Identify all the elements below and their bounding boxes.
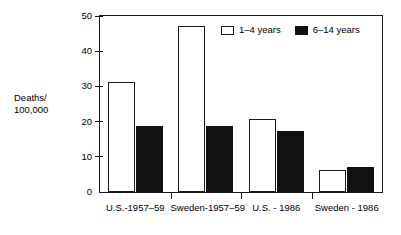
y-axis-tick-label-0: 0	[60, 185, 92, 198]
x-axis-label-1: U.S.-1957–59	[100, 201, 171, 214]
bar-2-series-2	[206, 126, 233, 192]
legend-label-1-4-years: 1–4 years	[239, 24, 281, 36]
legend-entry-1-4-years: 1–4 years	[221, 24, 281, 36]
x-axis-label-2: Sweden-1957–59	[171, 201, 242, 214]
x-axis-group-separator-2	[241, 193, 242, 199]
legend-entry-6-14-years: 6–14 years	[295, 24, 360, 36]
bar-4-series-1	[319, 170, 346, 192]
bar-4-series-2	[347, 167, 374, 192]
y-axis-tick-label-40: 40	[60, 44, 92, 57]
y-axis-tick-label-20: 20	[60, 115, 92, 128]
y-axis-tick-label-10: 10	[60, 150, 92, 163]
bar-3-series-2	[277, 131, 304, 192]
y-axis-title: Deaths/ 100,000	[14, 92, 76, 116]
x-axis-group-separator-1	[171, 193, 172, 199]
y-axis-tick-mark-30	[95, 86, 103, 87]
y-axis-title-line-1: Deaths/	[14, 92, 76, 104]
y-axis-tick-mark-50	[95, 16, 103, 17]
y-axis-tick-mark-40	[95, 51, 103, 52]
plot-area	[99, 15, 383, 193]
x-axis-label-4: Sweden - 1986	[312, 201, 383, 214]
x-axis-label-3: U.S. - 1986	[241, 201, 312, 214]
y-axis-tick-mark-20	[95, 121, 103, 122]
legend: 1–4 years 6–14 years	[221, 24, 360, 36]
y-axis-tick-label-50: 50	[60, 9, 92, 22]
bar-1-series-1	[108, 82, 135, 192]
bar-1-series-2	[136, 126, 163, 192]
x-axis-group-separator-3	[312, 193, 313, 199]
legend-swatch-icon-1-4-years	[221, 26, 234, 35]
y-axis-tick-label-30: 30	[60, 79, 92, 92]
legend-swatch-icon-6-14-years	[295, 26, 308, 35]
bar-chart-figure: Deaths/ 100,000 1–4 years 6–14 years 010…	[0, 0, 401, 235]
bar-2-series-1	[178, 26, 205, 192]
bar-3-series-1	[249, 119, 276, 192]
legend-label-6-14-years: 6–14 years	[313, 24, 360, 36]
y-axis-tick-mark-10	[95, 156, 103, 157]
